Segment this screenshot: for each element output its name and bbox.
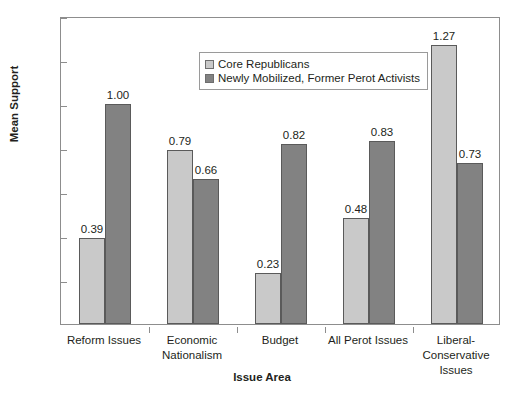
- legend-item: Core Republicans: [205, 57, 420, 71]
- legend-label: Newly Mobilized, Former Perot Activists: [218, 72, 420, 84]
- bar-value-label: 0.73: [450, 148, 490, 160]
- legend: Core Republicans Newly Mobilized, Former…: [199, 52, 428, 90]
- bar-1-1: [193, 179, 219, 324]
- bar-0-0: [79, 238, 105, 324]
- y-axis-tick-mark: [61, 62, 67, 63]
- y-axis-tick-mark: [61, 282, 67, 283]
- y-axis-tick-mark: [61, 18, 67, 19]
- bar-1-0: [105, 104, 131, 324]
- bar-value-label: 0.83: [362, 126, 402, 138]
- x-axis-category-line: Liberal-: [404, 333, 508, 348]
- legend-swatch-icon: [205, 60, 214, 69]
- x-axis-title: Issue Area: [0, 371, 524, 383]
- y-axis-tick-mark: [61, 238, 67, 239]
- bar-chart-figure: Mean Support 00.20.40.60.811.21.4 0.391.…: [0, 0, 524, 395]
- legend-swatch-icon: [205, 74, 214, 83]
- y-axis-tick-mark: [61, 106, 67, 107]
- bar-value-label: 1.00: [98, 89, 138, 101]
- bar-1-2: [281, 144, 307, 324]
- bar-value-label: 0.66: [186, 164, 226, 176]
- bar-1-4: [457, 163, 483, 324]
- bar-1-3: [369, 141, 395, 324]
- x-axis-category-line: Nationalism: [140, 348, 244, 363]
- bar-0-1: [167, 150, 193, 324]
- y-axis-tick-mark: [61, 150, 67, 151]
- bar-0-2: [255, 273, 281, 324]
- bar-0-4: [431, 45, 457, 324]
- legend-item: Newly Mobilized, Former Perot Activists: [205, 71, 420, 85]
- bar-0-3: [343, 218, 369, 324]
- y-axis-title: Mean Support: [8, 49, 20, 159]
- bar-value-label: 1.27: [424, 30, 464, 42]
- y-axis-tick-mark: [61, 194, 67, 195]
- legend-label: Core Republicans: [218, 58, 309, 70]
- plot-area: 0.391.000.790.660.230.820.480.831.270.73…: [60, 17, 500, 325]
- bar-value-label: 0.79: [160, 135, 200, 147]
- bar-value-label: 0.82: [274, 129, 314, 141]
- x-axis-category-line: Conservative: [404, 348, 508, 363]
